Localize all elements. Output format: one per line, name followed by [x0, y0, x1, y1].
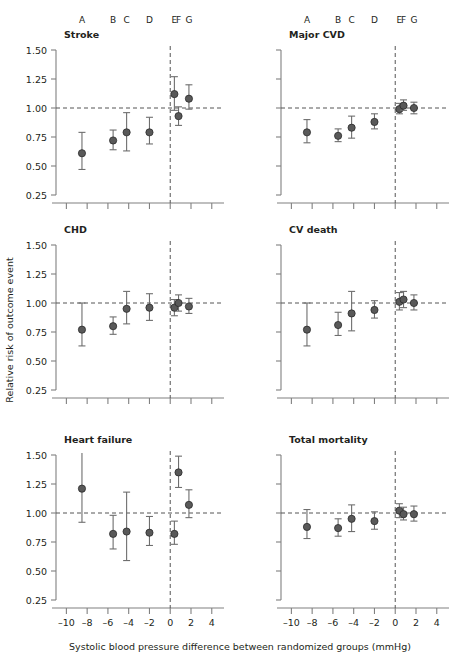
data-points [78, 291, 192, 346]
group-letter-A: A [79, 15, 86, 25]
x-tick-label: –2 [369, 617, 380, 628]
data-marker [371, 118, 378, 125]
x-tick-label: –8 [82, 617, 93, 628]
data-marker [400, 511, 407, 518]
panel-bottom-right: Total mortality–10–8–6–4–2024 [276, 434, 449, 628]
data-point-B [110, 515, 117, 549]
y-axis-title: Relative risk of outcome event [4, 257, 15, 403]
y-tick-label: 1.25 [26, 479, 47, 490]
data-marker [335, 321, 342, 328]
x-axis-title: Systolic blood pressure difference betwe… [69, 641, 411, 652]
data-marker [303, 129, 310, 136]
x-tick-label: –10 [58, 617, 75, 628]
data-marker [78, 485, 85, 492]
panel-title-middle-left: CHD [64, 224, 87, 235]
group-letter-B: B [335, 15, 341, 25]
y-tick-label: 0.50 [26, 566, 47, 577]
panel-top-right: ABCDEFGMajor CVD [276, 15, 449, 209]
data-point-B [110, 317, 117, 334]
panel-title-bottom-left: Heart failure [64, 434, 132, 445]
data-marker [123, 305, 130, 312]
data-point-G [410, 295, 417, 310]
data-marker [146, 129, 153, 136]
data-point-C [348, 505, 355, 532]
data-point-D [146, 516, 153, 545]
data-point-D [146, 294, 153, 321]
data-point-C [123, 492, 130, 560]
x-tick-label: 2 [188, 617, 194, 628]
data-point-A [78, 441, 85, 522]
group-letter-C: C [348, 15, 354, 25]
x-tick-label: –4 [348, 617, 359, 628]
data-marker [175, 469, 182, 476]
group-letter-D: D [146, 15, 153, 25]
data-point-F [175, 107, 182, 126]
data-point-A [78, 132, 85, 169]
data-point-G [410, 506, 417, 521]
data-marker [171, 530, 178, 537]
group-letter-F: F [401, 15, 406, 25]
data-marker [335, 524, 342, 531]
data-point-C [348, 116, 355, 138]
data-point-F [175, 456, 182, 487]
data-point-B [335, 312, 342, 335]
y-tick-label: 0.25 [26, 385, 47, 396]
data-marker [146, 304, 153, 311]
data-marker [335, 132, 342, 139]
group-letter-B: B [110, 15, 116, 25]
data-marker [78, 326, 85, 333]
panel-middle-left: CHD0.250.500.751.001.251.50 [26, 224, 224, 404]
data-marker [171, 90, 178, 97]
data-marker [371, 518, 378, 525]
data-marker [175, 113, 182, 120]
data-point-E [171, 521, 178, 544]
y-tick-label: 1.50 [26, 45, 47, 56]
data-point-D [146, 117, 153, 144]
panel-bottom-left: Heart failure0.250.500.751.001.251.50–10… [26, 434, 224, 628]
data-points [78, 77, 192, 170]
y-tick-label: 0.50 [26, 161, 47, 172]
data-point-D [371, 114, 378, 129]
forest-plot-figure: ABCDEFGStroke0.250.500.751.001.251.50ABC… [0, 0, 451, 657]
data-marker [123, 528, 130, 535]
x-tick-label: 4 [209, 617, 215, 628]
data-point-F [400, 100, 407, 110]
y-tick-label: 1.00 [26, 508, 47, 519]
y-tick-label: 1.00 [26, 103, 47, 114]
group-letter-G: G [185, 15, 192, 25]
panel-title-top-left: Stroke [64, 29, 99, 40]
data-point-E [171, 77, 178, 111]
y-tick-label: 0.75 [26, 132, 47, 143]
x-tick-label: 0 [167, 617, 173, 628]
data-marker [123, 129, 130, 136]
y-tick-label: 1.25 [26, 269, 47, 280]
data-marker [146, 529, 153, 536]
x-tick-label: 4 [434, 617, 440, 628]
data-points [78, 441, 192, 560]
data-marker [303, 326, 310, 333]
data-marker [185, 95, 192, 102]
data-marker [303, 523, 310, 530]
data-points [303, 100, 417, 143]
data-marker [348, 124, 355, 131]
data-point-B [335, 129, 342, 142]
x-tick-label: –4 [123, 617, 134, 628]
group-letter-D: D [371, 15, 378, 25]
panel-title-bottom-right: Total mortality [289, 434, 368, 445]
x-tick-label: –6 [103, 617, 114, 628]
data-point-D [371, 301, 378, 318]
data-point-A [78, 303, 85, 346]
data-marker [400, 296, 407, 303]
y-tick-label: 1.25 [26, 74, 47, 85]
data-point-G [410, 102, 417, 114]
panel-title-top-right: Major CVD [289, 29, 345, 40]
data-marker [348, 515, 355, 522]
figure-canvas: ABCDEFGStroke0.250.500.751.001.251.50ABC… [0, 0, 451, 657]
x-tick-label: –2 [144, 617, 155, 628]
data-point-C [123, 291, 130, 323]
data-point-G [185, 298, 192, 313]
data-point-B [335, 519, 342, 536]
y-tick-label: 0.75 [26, 537, 47, 548]
group-letter-F: F [176, 15, 181, 25]
data-point-C [123, 113, 130, 151]
